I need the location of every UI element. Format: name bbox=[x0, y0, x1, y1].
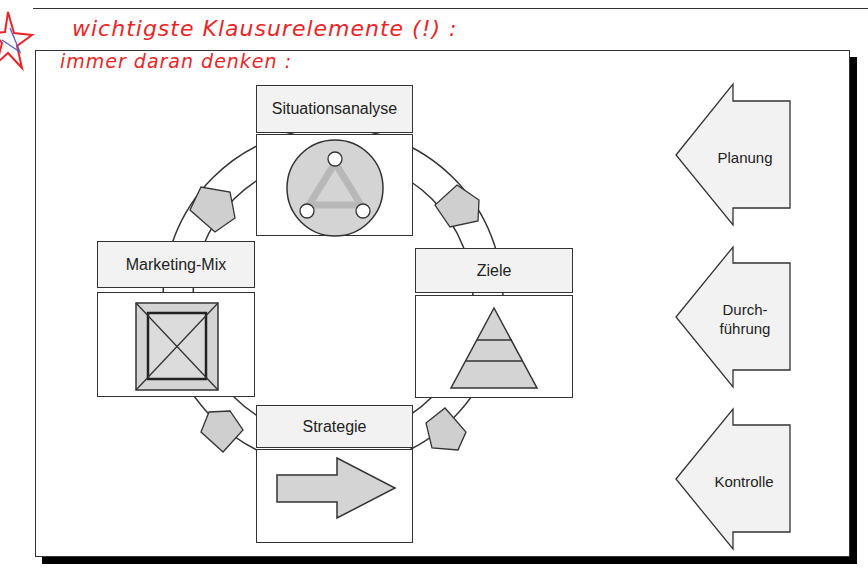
handwritten-note-line2: immer daran denken : bbox=[60, 50, 292, 72]
handwritten-note-line1: wichtigste Klausurelemente (!) : bbox=[72, 16, 458, 41]
star-doodle-icon bbox=[0, 0, 868, 583]
